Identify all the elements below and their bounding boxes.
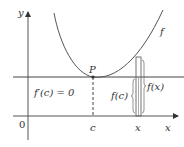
- origin-label: 0: [19, 119, 25, 130]
- derivative-label: f′(c) = 0: [33, 87, 75, 98]
- figure-canvas: y x 0 f P c x f(c) f(x) f′(c) = 0: [0, 0, 184, 147]
- tick-label-x: x: [135, 122, 141, 133]
- curve-label: f: [159, 26, 166, 37]
- y-axis-label: y: [17, 7, 24, 18]
- fx-brace: [142, 60, 146, 113]
- fc-brace: [131, 79, 135, 113]
- curve-f: [54, 10, 163, 77]
- x-axis-label: x: [165, 122, 171, 133]
- point-label: P: [88, 64, 96, 75]
- fx-label: f(x): [146, 81, 164, 92]
- tick-label-c: c: [90, 122, 96, 133]
- fc-label: f(c): [110, 90, 128, 101]
